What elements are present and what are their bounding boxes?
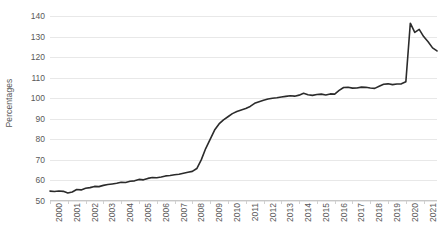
y-axis-tick-label: 130 (31, 32, 45, 42)
x-axis-tick-label: 2012 (268, 203, 278, 222)
x-axis-tick-label: 2011 (250, 203, 260, 221)
y-axis-title: Percentages (0, 0, 18, 205)
x-axis-tick-labels: 2000200120022003200420052006200720082009… (50, 201, 437, 237)
plot-area (50, 16, 437, 201)
x-axis-tick-label: 2003 (107, 203, 117, 222)
y-axis-title-label: Percentages (4, 78, 14, 127)
x-axis-tick-label: 2007 (179, 203, 189, 222)
x-axis-tick-label: 2002 (90, 203, 100, 222)
x-axis-tick-label: 2006 (161, 203, 171, 222)
x-axis-tick-label: 2005 (143, 203, 153, 222)
x-axis-tick-label: 2014 (303, 203, 313, 222)
y-axis-tick-label: 120 (31, 52, 45, 62)
y-axis-tick-label: 100 (31, 93, 45, 103)
x-axis-tick-label: 2020 (410, 203, 420, 222)
x-axis-tick-label: 2008 (196, 203, 206, 222)
x-axis-tick-label: 2000 (54, 203, 64, 222)
y-axis-tick-label: 110 (31, 73, 45, 83)
y-axis-tick-label: 80 (36, 134, 45, 144)
y-axis-tick-label: 90 (36, 114, 45, 124)
x-axis-tick-label: 2019 (392, 203, 402, 222)
y-axis-tick-label: 60 (36, 175, 45, 185)
x-axis-tick-label: 2001 (72, 203, 82, 222)
x-axis-tick-label: 2009 (214, 203, 224, 222)
x-axis-tick-label: 2010 (232, 203, 242, 222)
x-axis-tick-label: 2015 (321, 203, 331, 222)
line-chart: Percentages 5060708090100110120130140 20… (0, 0, 442, 237)
series-line-percentages (50, 16, 437, 201)
x-axis-tick-label: 2016 (339, 203, 349, 222)
x-axis-tick-label: 2021 (428, 203, 438, 222)
y-axis-tick-labels: 5060708090100110120130140 (18, 0, 48, 237)
series-polyline (50, 23, 437, 193)
y-axis-tick-label: 140 (31, 11, 45, 21)
x-axis-tick-label: 2018 (374, 203, 384, 222)
y-axis-tick-label: 50 (36, 196, 45, 206)
x-axis-tick-label: 2013 (285, 203, 295, 222)
x-axis-tick-label: 2004 (125, 203, 135, 222)
y-axis-tick-label: 70 (36, 155, 45, 165)
x-axis-tick-label: 2017 (356, 203, 366, 222)
